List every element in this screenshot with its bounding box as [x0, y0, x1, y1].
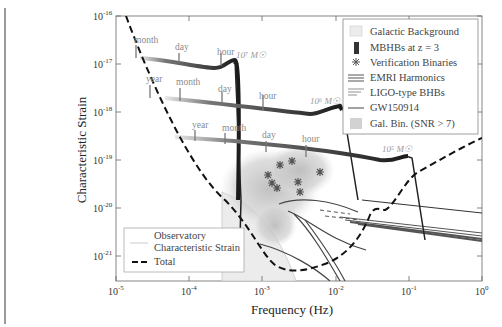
- svg-text:10-1: 10-1: [401, 284, 417, 297]
- label-1e6-hour: hour: [259, 91, 277, 101]
- svg-text:10-2: 10-2: [328, 284, 344, 297]
- speckle-icon: [350, 118, 362, 129]
- label-1e5-hour: hour: [302, 134, 320, 144]
- legend-observatory-line2: Characteristic Strain: [154, 242, 241, 253]
- label-1e5-month: month: [222, 123, 247, 133]
- label-1e6-year: year: [146, 74, 163, 84]
- legend-total: Total: [154, 256, 176, 267]
- legend-verification-binaries: Verification Binaries: [370, 57, 457, 68]
- svg-text:10-18: 10-18: [93, 105, 113, 118]
- label-1e7-mass: 10⁷ M☉: [236, 50, 267, 60]
- svg-text:10-17: 10-17: [93, 57, 113, 70]
- x-axis-title: Frequency (Hz): [251, 302, 333, 317]
- label-1e7-hour: hour: [217, 47, 235, 57]
- legend-gal-bin: Gal. Bin. (SNR > 7): [370, 118, 455, 130]
- label-1e7-day: day: [175, 42, 189, 52]
- legend-lower: Observatory Characteristic Strain Total: [124, 228, 244, 272]
- asterisk-icon: [352, 58, 360, 66]
- label-1e6-mass: 10⁶ M☉: [310, 96, 341, 106]
- label-1e5-mass: 10⁵ M☉: [382, 144, 413, 154]
- legend-galactic-background: Galactic Background: [370, 26, 460, 37]
- svg-text:10-20: 10-20: [93, 201, 113, 214]
- svg-text:10-21: 10-21: [93, 249, 113, 262]
- x-tick-labels: 10-5 10-4 10-3 10-2 10-1 100: [108, 284, 489, 297]
- svg-text:100: 100: [475, 284, 489, 297]
- legend-emri-harmonics: EMRI Harmonics: [370, 72, 445, 83]
- svg-text:10-4: 10-4: [181, 284, 197, 297]
- svg-text:10-5: 10-5: [108, 284, 124, 297]
- legend-gw150914: GW150914: [370, 102, 420, 113]
- label-1e5-year: year: [192, 120, 209, 130]
- strain-chart: month day hour 10⁷ M☉ year month day hou…: [0, 0, 502, 327]
- y-axis-title: Characteristic Strain: [74, 96, 89, 203]
- svg-text:10-16: 10-16: [93, 9, 113, 22]
- legend-main: Galactic Background MBHBs at z = 3 Verif…: [343, 19, 478, 134]
- legend-observatory-line1: Observatory: [154, 230, 207, 241]
- legend-mbhbs: MBHBs at z = 3: [370, 42, 439, 53]
- label-1e5-day: day: [262, 130, 276, 140]
- svg-text:10-3: 10-3: [254, 284, 270, 297]
- label-1e6-day: day: [218, 84, 232, 94]
- legend-ligo-type-bhbs: LIGO-type BHBs: [370, 87, 445, 98]
- gradient-bar-icon: [354, 42, 359, 54]
- gray-box-icon: [350, 26, 362, 36]
- galactic-binaries-cloud-3: [253, 203, 297, 247]
- svg-text:10-19: 10-19: [93, 153, 113, 166]
- label-1e6-month: month: [176, 77, 201, 87]
- label-1e7-month: month: [134, 35, 159, 45]
- y-tick-labels: 10-16 10-17 10-18 10-19 10-20 10-21: [93, 9, 113, 262]
